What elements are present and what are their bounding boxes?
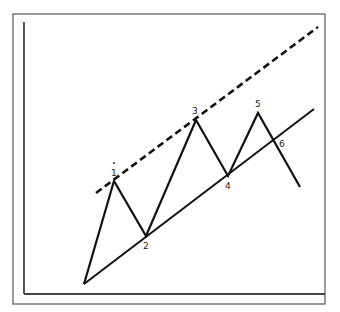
outer-frame [13,14,325,304]
resistance-trendline-dashed [96,27,318,193]
point-label-3: 3 [192,106,198,116]
point-label-4: 4 [225,181,231,191]
wave-pattern-diagram: 123456 [0,0,340,312]
support-trendline [84,109,314,284]
label-1-dot-mark [113,162,115,164]
point-label-6: 6 [279,139,285,149]
point-label-2: 2 [143,241,149,251]
point-label-5: 5 [255,99,261,109]
point-label-1: 1 [111,168,117,178]
